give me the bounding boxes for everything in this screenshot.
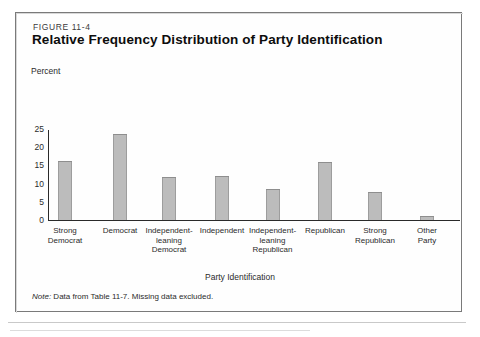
figure-number: FIGURE 11-4 (33, 22, 90, 32)
figure-border (15, 12, 462, 312)
note-text: Data from Table 11-7. Missing data exclu… (51, 292, 213, 301)
note-prefix: Note: (32, 292, 51, 301)
figure-title: Relative Frequency Distribution of Party… (32, 32, 383, 47)
page-edge-line (8, 322, 466, 323)
figure-page: FIGURE 11-4 Relative Frequency Distribut… (0, 0, 480, 337)
figure-note: Note: Data from Table 11-7. Missing data… (32, 292, 213, 301)
page-edge-line-secondary (10, 330, 310, 331)
